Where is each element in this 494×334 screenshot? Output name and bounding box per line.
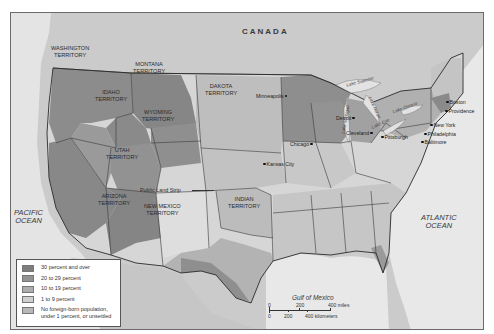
label-dakota-territory: DAKOTA TERRITORY (205, 83, 237, 96)
label-wyoming-territory: WYOMING TERRITORY (142, 109, 174, 122)
legend-swatch-1-9 (22, 296, 34, 303)
label-utah-territory: UTAH TERRITORY (106, 147, 138, 160)
label-atlantic-ocean: ATLANTIC OCEAN (421, 214, 457, 230)
label-new-mexico-territory: NEW MEXICO TERRITORY (144, 203, 181, 216)
scale-tick (330, 308, 331, 310)
city-marker-icon (445, 110, 448, 113)
label-pacific-ocean: PACIFIC OCEAN (14, 209, 43, 225)
label-washington-territory: WASHINGTON TERRITORY (51, 45, 89, 58)
label-public-land-strip: Public Land Strip (140, 187, 181, 194)
label-arizona-territory: ARIZONA TERRITORY (98, 193, 130, 206)
map-frame: CANADA MEXICO PACIFIC OCEAN ATLANTIC OCE… (10, 12, 484, 330)
legend-swatch-20-29 (22, 275, 34, 282)
city-new-york: New York (430, 122, 455, 128)
scale-bar: 0 200 400 miles 0 200 400 kilometers (268, 302, 358, 324)
label-indian-territory: INDIAN TERRITORY (228, 196, 260, 209)
legend-swatch-none (22, 307, 34, 314)
city-baltimore: Baltimore (421, 139, 446, 145)
city-marker-icon (421, 141, 424, 144)
legend-swatch-10-19 (22, 286, 34, 293)
city-chicago: Chicago (290, 141, 313, 147)
scale-tick (288, 310, 289, 312)
city-marker-icon (381, 136, 384, 139)
city-marker-icon (263, 163, 266, 166)
city-philadelphia: Philadelphia (424, 131, 456, 137)
city-minneapolis: Minneapolis (256, 93, 287, 99)
city-marker-icon (424, 133, 427, 136)
scale-tick (299, 308, 300, 310)
scale-line (269, 310, 331, 311)
legend-swatch-30-plus (22, 265, 34, 272)
city-marker-icon (285, 95, 288, 98)
label-canada: CANADA (242, 29, 289, 36)
city-cleveland: Cleveland (346, 130, 373, 136)
legend-item: 1 to 9 percent (22, 296, 115, 304)
city-boston: Boston (446, 99, 466, 105)
city-kansas-city: Kansas City (263, 161, 294, 167)
label-gulf-of-mexico: Gulf of Mexico (292, 294, 334, 302)
label-montana-territory: MONTANA TERRITORY (133, 61, 165, 74)
label-idaho-territory: IDAHO TERRITORY (95, 89, 127, 102)
legend-item: 10 to 19 percent (22, 285, 115, 293)
city-marker-icon (446, 101, 449, 104)
city-marker-icon (310, 143, 313, 146)
legend-item: 30 percent and over (22, 264, 115, 272)
scale-tick (307, 310, 308, 312)
city-pittsburgh: Pittsburgh (381, 134, 408, 140)
public-land-strip-leader-line (192, 190, 214, 191)
map-legend: 30 percent and over 20 to 29 percent 10 … (16, 259, 121, 327)
city-marker-icon (370, 132, 373, 135)
city-providence: Providence (445, 108, 474, 114)
legend-item: No foreign-born population, under 1 perc… (22, 306, 115, 319)
city-marker-icon (352, 117, 355, 120)
legend-item: 20 to 29 percent (22, 275, 115, 283)
city-marker-icon (430, 124, 433, 127)
